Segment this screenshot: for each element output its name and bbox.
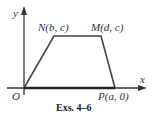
trapezoid-sides — [24, 36, 115, 88]
trapezoid-figure: y x N(b, c) M(d, c) O P(a, 0) Exs. 4–6 — [0, 0, 153, 120]
point-N-label: N(b, c) — [37, 21, 69, 34]
point-P-label: P(a, 0) — [97, 90, 129, 103]
figure-caption: Exs. 4–6 — [56, 102, 92, 113]
point-M-label: M(d, c) — [90, 21, 124, 34]
x-axis-arrow-icon — [138, 85, 147, 91]
point-O-label: O — [12, 90, 20, 102]
y-axis-label: y — [12, 7, 18, 19]
x-axis-label: x — [139, 73, 145, 85]
y-axis-arrow-icon — [21, 6, 27, 15]
